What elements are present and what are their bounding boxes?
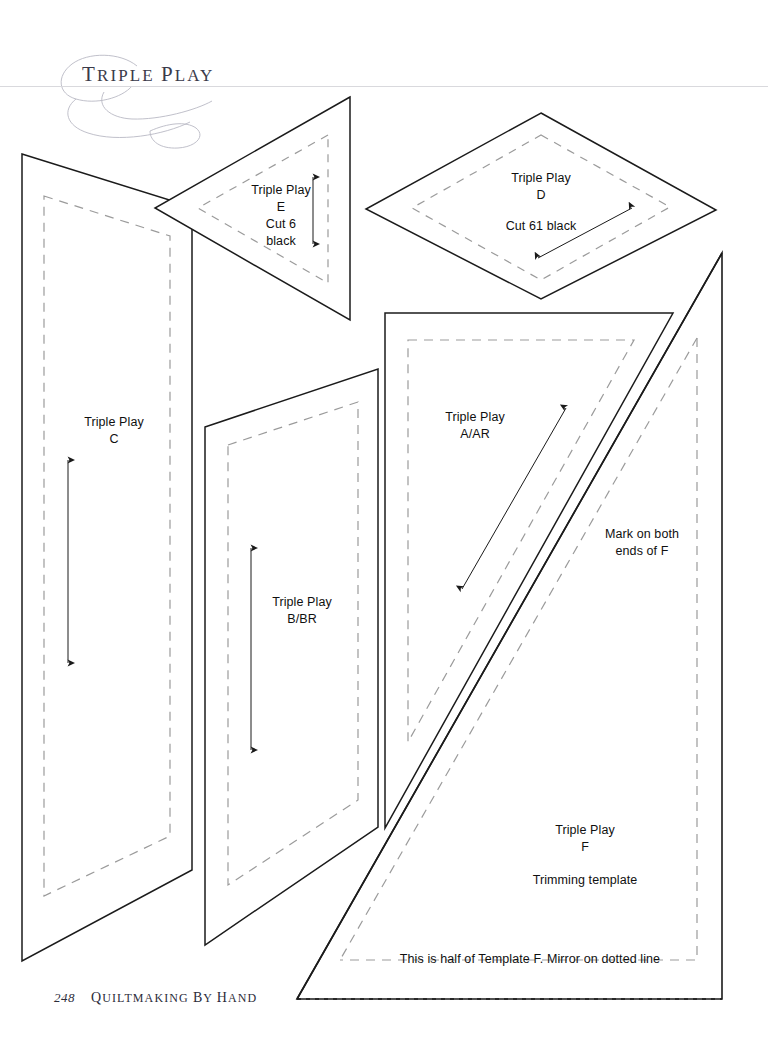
page-footer: 248 QUILTMAKING BY HAND <box>54 988 257 1006</box>
template-shape-d <box>366 113 716 299</box>
label-bbr-letter: B/BR <box>272 611 332 628</box>
header-title-text: TRIPLE PLAY <box>82 66 215 85</box>
note-mark-both-ends: Mark on both ends of F <box>605 526 679 560</box>
template-bbr-cut-line <box>205 369 378 945</box>
label-f-letter: F <box>555 839 615 856</box>
label-d-pattern: Triple Play <box>511 170 571 187</box>
label-template-d: Triple Play D <box>511 170 571 204</box>
label-f-pattern: Triple Play <box>555 822 615 839</box>
label-d-letter: D <box>511 187 571 204</box>
label-e-fabric: black <box>251 233 311 250</box>
template-shape-bbr <box>205 369 378 945</box>
label-aar-letter: A/AR <box>445 426 505 443</box>
label-e-pattern: Triple Play <box>251 182 311 199</box>
label-e-cut: Cut 6 <box>251 216 311 233</box>
label-f-subtitle: Trimming template <box>533 872 638 889</box>
template-c-cut-line <box>22 154 192 961</box>
footer-book-title: QUILTMAKING BY HAND <box>91 991 257 1005</box>
label-template-c: Triple Play C <box>84 414 144 448</box>
page-canvas: TRIPLE PLAY Triple Play C Triple Play E … <box>0 0 768 1052</box>
label-d-cut: Cut 61 black <box>506 218 577 235</box>
note-mark-line-1: Mark on both <box>605 526 679 543</box>
label-e-letter: E <box>251 199 311 216</box>
label-template-e: Triple Play E Cut 6 black <box>251 182 311 250</box>
note-mark-line-2: ends of F <box>605 543 679 560</box>
template-d-cut-line <box>366 113 716 299</box>
label-template-f: Triple Play F <box>555 822 615 856</box>
template-shape-c <box>22 154 192 961</box>
footer-page-number: 248 <box>54 990 75 1005</box>
label-template-aar: Triple Play A/AR <box>445 409 505 443</box>
label-c-letter: C <box>84 431 144 448</box>
label-c-pattern: Triple Play <box>84 414 144 431</box>
label-bbr-pattern: Triple Play <box>272 594 332 611</box>
note-mirror-on-dotted-line: This is half of Template F. Mirror on do… <box>400 951 660 968</box>
label-aar-pattern: Triple Play <box>445 409 505 426</box>
page-header-title: TRIPLE PLAY <box>82 62 215 87</box>
label-template-bbr: Triple Play B/BR <box>272 594 332 628</box>
